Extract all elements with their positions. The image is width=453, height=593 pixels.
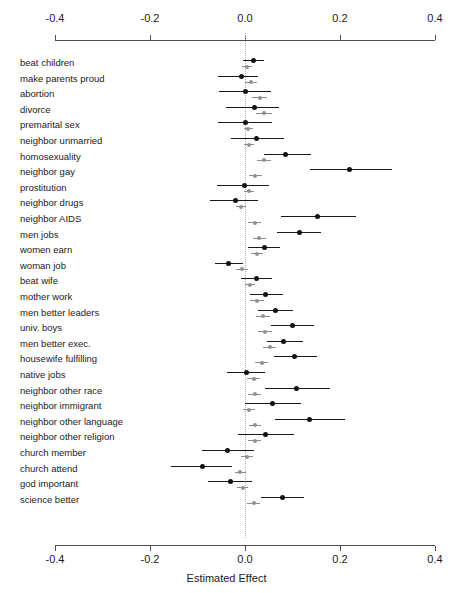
data-point — [281, 339, 286, 344]
data-point — [245, 455, 249, 459]
row-label: neighbor unmarried — [20, 136, 102, 146]
data-point — [283, 152, 288, 157]
axis-tick — [55, 35, 56, 40]
data-point — [290, 323, 295, 328]
axis-tick — [245, 546, 246, 551]
data-point — [255, 252, 259, 256]
data-point — [253, 423, 257, 427]
data-point — [347, 167, 352, 172]
row-label: men jobs — [20, 230, 59, 240]
axis-tick-label: 0.0 — [225, 12, 265, 24]
row-label: prostitution — [20, 183, 66, 193]
zero-reference-line — [245, 33, 246, 538]
row-label: men better leaders — [20, 308, 99, 318]
data-point — [241, 486, 245, 490]
data-point — [273, 308, 278, 313]
axis-tick — [150, 546, 151, 551]
data-point — [253, 439, 257, 443]
row-label: mother work — [20, 292, 72, 302]
data-point — [252, 105, 257, 110]
data-point — [253, 174, 257, 178]
data-point — [243, 120, 248, 125]
data-point — [249, 80, 253, 84]
row-label: neighbor other religion — [20, 432, 115, 442]
data-point — [225, 448, 230, 453]
data-point — [262, 158, 266, 162]
data-point — [263, 330, 267, 334]
data-point — [228, 479, 233, 484]
data-point — [233, 198, 238, 203]
data-point — [247, 189, 251, 193]
axis-tick-label: 0.2 — [320, 12, 360, 24]
data-point — [247, 408, 251, 412]
axis-tick-label: -0.2 — [130, 553, 170, 565]
data-point — [292, 354, 297, 359]
data-point — [261, 314, 265, 318]
row-label: housewife fulfilling — [20, 354, 97, 364]
data-point — [268, 345, 272, 349]
row-label: neighbor other language — [20, 417, 123, 427]
data-point — [239, 205, 243, 209]
row-label: abortion — [20, 89, 54, 99]
row-label: neighbor drugs — [20, 198, 83, 208]
data-point — [263, 292, 268, 297]
data-point — [252, 501, 256, 505]
data-point — [245, 65, 249, 69]
row-label: men better exec. — [20, 339, 91, 349]
axis-tick — [150, 35, 151, 40]
axis-tick-label: -0.4 — [35, 553, 75, 565]
row-label: woman job — [20, 261, 66, 271]
data-point — [258, 96, 262, 100]
data-point — [253, 221, 257, 225]
row-label: neighbor other race — [20, 386, 102, 396]
data-point — [254, 276, 259, 281]
row-label: univ. boys — [20, 323, 62, 333]
data-point — [257, 236, 261, 240]
axis-tick-label: 0.2 — [320, 553, 360, 565]
data-point — [238, 470, 242, 474]
axis-tick-label: 0.4 — [415, 12, 453, 24]
axis-tick-label: -0.4 — [35, 12, 75, 24]
row-label: church member — [20, 448, 86, 458]
row-label: neighbor AIDS — [20, 214, 81, 224]
data-point — [280, 495, 285, 500]
data-point — [297, 230, 302, 235]
data-point — [246, 127, 250, 131]
row-label: neighbor immigrant — [20, 401, 101, 411]
data-point — [243, 89, 248, 94]
data-point — [244, 370, 249, 375]
row-label: god important — [20, 479, 78, 489]
axis-tick — [55, 546, 56, 551]
forest-plot: -0.4-0.20.00.20.4 beat childrenmake pare… — [0, 0, 453, 593]
data-point — [260, 361, 264, 365]
data-point — [242, 183, 247, 188]
data-point — [251, 58, 256, 63]
row-label: make parents proud — [20, 74, 105, 84]
row-label: beat wife — [20, 276, 58, 286]
data-point — [248, 283, 252, 287]
row-label: science better — [20, 495, 79, 505]
row-label: premarital sex — [20, 120, 80, 130]
data-point — [226, 261, 231, 266]
axis-tick — [340, 546, 341, 551]
data-point — [239, 74, 244, 79]
axis-tick — [435, 546, 436, 551]
axis-tick-label: 0.4 — [415, 553, 453, 565]
data-point — [200, 464, 205, 469]
x-axis-title: Estimated Effect — [0, 572, 453, 584]
data-point — [262, 111, 266, 115]
row-label: neighbor gay — [20, 167, 75, 177]
row-label: church attend — [20, 464, 78, 474]
data-point — [254, 136, 259, 141]
row-label: women earn — [20, 245, 72, 255]
axis-tick-label: -0.2 — [130, 12, 170, 24]
data-point — [262, 245, 267, 250]
row-label: native jobs — [20, 370, 65, 380]
data-point — [252, 377, 256, 381]
row-label: beat children — [20, 58, 74, 68]
data-point — [270, 401, 275, 406]
data-point — [247, 143, 251, 147]
row-label: homosexuality — [20, 152, 81, 162]
axis-tick — [340, 35, 341, 40]
data-point — [307, 417, 312, 422]
